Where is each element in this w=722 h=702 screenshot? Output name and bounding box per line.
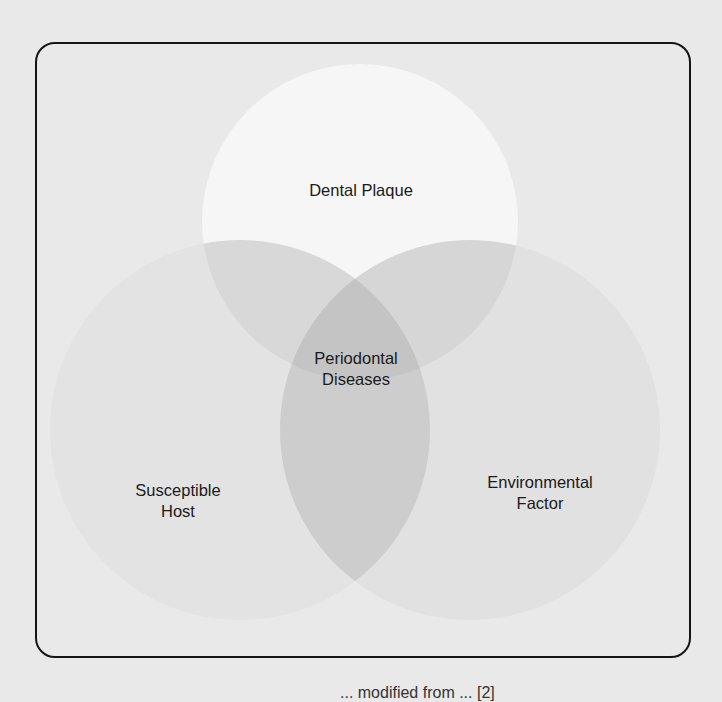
- figure-caption: ... modified from ... [2]: [340, 684, 495, 702]
- label-dental-plaque: Dental Plaque: [309, 180, 413, 201]
- label-susceptible-line2: Host: [135, 501, 220, 522]
- label-periodontal-diseases: Periodontal Diseases: [314, 348, 397, 390]
- label-dental-plaque-text: Dental Plaque: [309, 181, 413, 199]
- label-periodontal-line1: Periodontal: [314, 348, 397, 369]
- label-environmental-factor: Environmental Factor: [487, 472, 592, 514]
- label-susceptible-host: Susceptible Host: [135, 480, 220, 522]
- label-susceptible-line1: Susceptible: [135, 480, 220, 501]
- label-periodontal-line2: Diseases: [314, 369, 397, 390]
- label-environmental-line2: Factor: [487, 493, 592, 514]
- label-environmental-line1: Environmental: [487, 472, 592, 493]
